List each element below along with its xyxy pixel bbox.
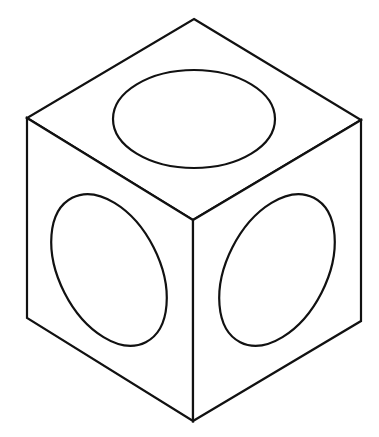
cube	[27, 19, 361, 421]
isometric-cube-diagram	[0, 0, 379, 437]
